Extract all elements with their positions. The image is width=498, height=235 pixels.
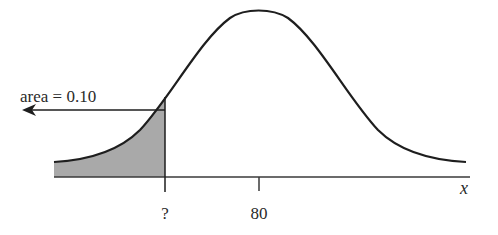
annotation-label: area = 0.10 <box>20 87 96 106</box>
normal-curve <box>54 11 466 163</box>
normal-curve-figure: area = 0.10 ? 80 x <box>0 0 498 235</box>
x-axis-label: x <box>459 178 468 198</box>
tick-label-cutoff: ? <box>161 204 169 223</box>
tick-label-mean: 80 <box>251 204 268 223</box>
shaded-tail-area <box>54 97 165 177</box>
